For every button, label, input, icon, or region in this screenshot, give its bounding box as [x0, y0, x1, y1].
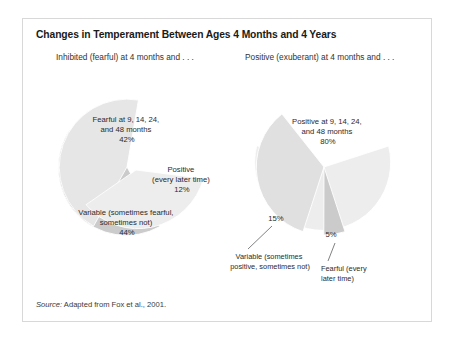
pie-callout-variable: Variable (sometimes positive, sometimes …	[230, 252, 310, 271]
leader-line-fearful	[328, 243, 335, 261]
pie-callout-fearful: Fearful (every later time)	[321, 264, 369, 283]
source-label: Source:	[36, 300, 62, 309]
source-text: Adapted from Fox et al., 2001.	[62, 300, 166, 309]
panel-subtitle-inhibited: Inhibited (fearful) at 4 months and . . …	[56, 52, 194, 62]
panel-subtitle-positive: Positive (exuberant) at 4 months and . .…	[245, 52, 394, 62]
figure-card: Changes in Temperament Between Ages 4 Mo…	[22, 18, 432, 322]
pie-chart-positive: Positive at 9, 14, 24, and 48 months 80%…	[228, 67, 428, 282]
pie-value-fearful-5: 5%	[325, 230, 336, 239]
pie-chart-inhibited: Fearful at 9, 14, 24, and 48 months 42% …	[31, 67, 231, 277]
source-note: Source: Adapted from Fox et al., 2001.	[36, 300, 166, 309]
page-title: Changes in Temperament Between Ages 4 Mo…	[36, 29, 424, 40]
leader-line-variable	[248, 226, 272, 249]
pie-value-variable-15: 15%	[268, 214, 284, 223]
